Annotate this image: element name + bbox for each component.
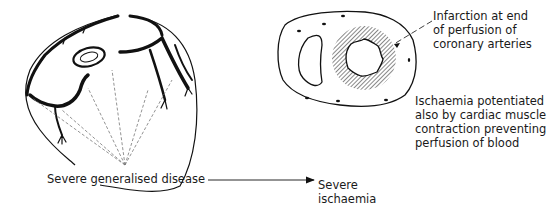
- infarction-label-line: coronary arteries: [433, 37, 532, 51]
- aortic-root-icon: [71, 44, 107, 70]
- infarction-label-line: of perfusion of: [433, 23, 532, 37]
- outcome-line: ischaemia: [318, 192, 376, 206]
- coronary-ischaemia-diagram: Infarction at end of perfusion of corona…: [0, 0, 554, 210]
- ischaemia-note-line: perfusion of blood: [415, 136, 546, 150]
- severe-ischaemia-label: Severe ischaemia: [318, 178, 376, 206]
- coronary-arteries-icon: [27, 16, 192, 144]
- ischaemia-note: Ischaemia potentiated also by cardiac mu…: [415, 94, 546, 150]
- heart-cross-section-icon: [278, 11, 432, 106]
- infarction-label-line: Infarction at end: [433, 9, 532, 23]
- disease-pointer-lines: [32, 70, 172, 165]
- infarction-label: Infarction at end of perfusion of corona…: [433, 9, 532, 51]
- ischaemia-note-line: also by cardiac muscle: [415, 108, 546, 122]
- ischaemia-note-line: Ischaemia potentiated: [415, 94, 546, 108]
- severe-disease-label: Severe generalised disease: [47, 172, 205, 186]
- heart-outline-icon: [26, 15, 197, 191]
- ischaemia-note-line: contraction preventing: [415, 122, 546, 136]
- outcome-line: Severe: [318, 178, 376, 192]
